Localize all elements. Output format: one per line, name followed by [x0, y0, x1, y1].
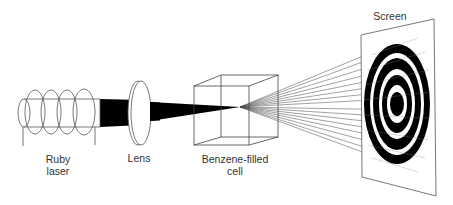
stimulated-raman-diagram: Ruby laser Lens Benzene-filled cell Scre…	[0, 0, 453, 205]
ruby-laser	[18, 89, 100, 146]
lens-label: Lens	[124, 152, 154, 164]
screen	[361, 19, 436, 196]
ruby-laser-label-line1: Ruby	[38, 153, 78, 165]
laser-beam	[100, 99, 240, 127]
coil-loop	[73, 89, 95, 135]
ruby-laser-label: Ruby laser	[38, 153, 78, 177]
cell-label: Benzene-filled cell	[195, 153, 275, 177]
cell-label-line1: Benzene-filled	[195, 153, 275, 165]
screen-label: Screen	[370, 10, 410, 22]
ring-pattern	[364, 44, 430, 164]
lens	[128, 81, 151, 145]
ruby-laser-label-line2: laser	[38, 165, 78, 177]
cell-label-line2: cell	[195, 165, 275, 177]
